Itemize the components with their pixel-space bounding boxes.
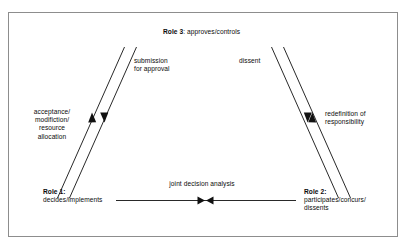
node-label-role3: Role 3: approves/controls xyxy=(163,28,283,36)
node-title-role1: Role 1: xyxy=(43,188,65,195)
edge-label-submission: submission for approval xyxy=(134,57,194,73)
node-label-role2: Role 2:participates/concurs/ dissents xyxy=(304,188,396,213)
edge-label-redefinition: redefinition of responsibility xyxy=(325,110,395,126)
node-description-role2: participates/concurs/ dissents xyxy=(304,196,366,211)
diagram-canvas: Role 3: approves/controls submission for… xyxy=(0,0,411,250)
node-title-role3: Role 3 xyxy=(163,28,183,35)
edge-label-joint-decision-analysis: joint decision analysis xyxy=(152,180,252,188)
edge-label-dissent: dissent xyxy=(239,57,289,65)
node-label-role1: Role 1:decides/implements xyxy=(43,188,133,204)
edge-label-acceptance: acceptance/ modifiction/ resource alloca… xyxy=(26,108,78,141)
node-title-role2: Role 2: xyxy=(304,188,326,195)
node-description-role3: approves/controls xyxy=(187,28,240,35)
node-description-role1: decides/implements xyxy=(43,196,102,203)
